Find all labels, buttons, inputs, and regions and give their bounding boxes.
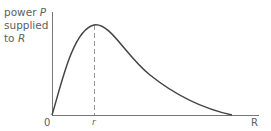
x-axis-label: R [251, 117, 258, 128]
chart-plot [0, 0, 271, 131]
origin-label: 0 [44, 117, 50, 128]
r-tick-label: r [92, 117, 96, 127]
power-curve [52, 25, 232, 115]
